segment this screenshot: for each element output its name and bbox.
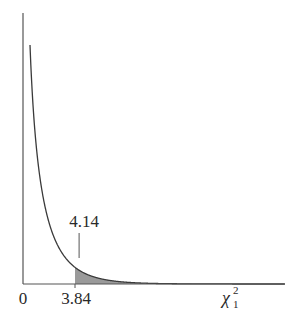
- tick-label-0: 0: [19, 289, 28, 308]
- svg-text:1: 1: [233, 298, 239, 310]
- svg-text:2: 2: [233, 284, 239, 296]
- tick-label-3-84: 3.84: [61, 289, 91, 308]
- density-curve: [30, 45, 285, 284]
- chi-square-chart: 0 3.84 4.14 χ 2 1: [0, 0, 305, 332]
- annotation-label-4-14: 4.14: [69, 212, 99, 231]
- x-axis-label: χ 2 1: [220, 284, 239, 310]
- svg-text:χ: χ: [220, 288, 231, 308]
- rejection-region-shade: [75, 267, 285, 284]
